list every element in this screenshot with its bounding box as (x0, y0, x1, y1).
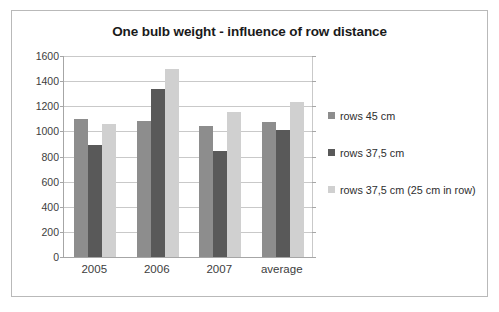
y-axis-tick-right (312, 56, 316, 57)
bar[interactable] (213, 151, 227, 257)
x-axis-label: 2005 (81, 263, 107, 275)
y-axis-tick-right (312, 257, 316, 258)
y-axis-label: 400 (15, 201, 59, 213)
x-axis-labels: 200520062007average (63, 263, 313, 283)
bar-group (199, 56, 241, 257)
bar[interactable] (88, 145, 102, 257)
y-axis-label: 1200 (15, 100, 59, 112)
bar[interactable] (165, 69, 179, 257)
legend-item[interactable]: rows 37,5 cm (328, 146, 478, 160)
y-axis-labels: 16001400120010008006004002000 (12, 56, 59, 257)
chart-legend: rows 45 cmrows 37,5 cmrows 37,5 cm (25 c… (328, 109, 478, 220)
y-axis-label: 1600 (15, 50, 59, 62)
y-axis-label: 1400 (15, 75, 59, 87)
y-axis-label: 0 (15, 251, 59, 263)
chart-container: One bulb weight - influence of row dista… (11, 10, 488, 297)
y-axis-label: 600 (15, 176, 59, 188)
bar[interactable] (199, 126, 213, 257)
y-axis-tick-right (312, 81, 316, 82)
bar-group (74, 56, 116, 257)
legend-item[interactable]: rows 37,5 cm (25 cm in row) (328, 183, 478, 197)
chart-title: One bulb weight - influence of row dista… (12, 24, 487, 39)
y-axis-tick-right (312, 106, 316, 107)
legend-item[interactable]: rows 45 cm (328, 109, 478, 123)
legend-label: rows 45 cm (340, 109, 395, 123)
bar[interactable] (102, 124, 116, 257)
x-axis-label: 2006 (144, 263, 170, 275)
y-axis-label: 800 (15, 151, 59, 163)
gridline (64, 257, 312, 258)
bar[interactable] (227, 112, 241, 257)
y-axis-tick-right (312, 182, 316, 183)
plot-area (63, 56, 313, 257)
legend-label: rows 37,5 cm (25 cm in row) (340, 183, 476, 197)
bar-group (262, 56, 304, 257)
x-axis-label: average (261, 263, 303, 275)
bar[interactable] (151, 89, 165, 257)
y-axis-tick-right (312, 232, 316, 233)
bar-group (137, 56, 179, 257)
bar[interactable] (262, 122, 276, 257)
bar[interactable] (137, 121, 151, 257)
bar[interactable] (74, 119, 88, 257)
y-axis-label: 200 (15, 226, 59, 238)
y-axis-tick-right (312, 207, 316, 208)
legend-label: rows 37,5 cm (340, 146, 404, 160)
bar[interactable] (276, 130, 290, 258)
y-axis-label: 1000 (15, 125, 59, 137)
y-axis-tick-right (312, 131, 316, 132)
y-axis-tick-right (312, 157, 316, 158)
bars-layer (64, 56, 312, 257)
y-axis-tick (60, 257, 64, 258)
x-axis-label: 2007 (206, 263, 232, 275)
bar[interactable] (290, 102, 304, 257)
legend-swatch-series-2 (328, 149, 335, 156)
legend-swatch-series-3 (328, 186, 335, 193)
legend-swatch-series-1 (328, 112, 335, 119)
